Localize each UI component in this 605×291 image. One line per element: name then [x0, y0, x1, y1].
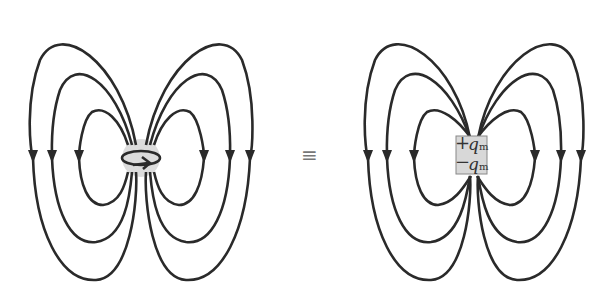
charge-positive-label: qm: [468, 136, 488, 155]
charge-negative-label: qm: [468, 156, 488, 175]
left-field-lines: [30, 44, 253, 280]
equivalence-symbol: ≡: [301, 143, 318, 167]
